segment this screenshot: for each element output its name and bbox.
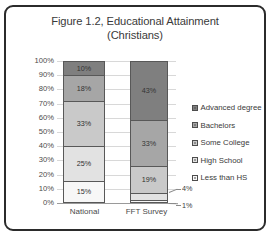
- y-tick-label: 0%: [20, 199, 54, 207]
- bar-segment-label: 10%: [77, 65, 91, 73]
- legend-item[interactable]: Bachelors: [192, 121, 266, 130]
- y-tick-label: 50%: [20, 128, 54, 136]
- legend-swatch-icon: [192, 175, 198, 181]
- bar-segment[interactable]: 10%: [64, 62, 104, 76]
- bar-segment[interactable]: 25%: [64, 147, 104, 182]
- bar-segment-label: 25%: [77, 160, 91, 168]
- chart-title-line-1: Figure 1.2, Educational Attainment: [51, 15, 219, 27]
- x-tick-national: National: [57, 207, 112, 217]
- y-tick-label: 40%: [20, 142, 54, 150]
- leader-line-high-school-tail: [176, 189, 181, 190]
- legend-swatch-icon: [192, 105, 198, 111]
- axis-baseline: [57, 203, 176, 204]
- bar-segment-label: 18%: [77, 85, 91, 93]
- y-axis: 100%90%80%70%60%50%40%30%20%10%0%: [20, 55, 54, 211]
- bar-segment[interactable]: [131, 201, 167, 202]
- legend-item[interactable]: High School: [192, 156, 266, 165]
- callout-less-than-hs: 1%: [182, 202, 192, 210]
- legend-item[interactable]: Some College: [192, 138, 266, 147]
- plot-area: 10%18%33%25%15% 43%33%19%: [57, 61, 176, 203]
- leader-line-less-than-hs-tail: [176, 205, 181, 206]
- y-tick-label: 20%: [20, 171, 54, 179]
- bar-segment[interactable]: 33%: [131, 121, 167, 167]
- legend-item[interactable]: Advanced degree: [192, 103, 266, 112]
- bar-segment-label: 43%: [142, 87, 156, 95]
- chart-title: Figure 1.2, Educational Attainment (Chri…: [6, 15, 264, 42]
- bar-segment[interactable]: 15%: [64, 182, 104, 202]
- legend-item-label: Some College: [201, 138, 250, 147]
- y-tick-label: 100%: [20, 57, 54, 65]
- legend-item-label: Bachelors: [201, 121, 236, 130]
- x-tick-fft-survey: FFT Survey: [117, 207, 176, 217]
- bar-segment-label: 33%: [77, 120, 91, 128]
- y-tick-label: 60%: [20, 114, 54, 122]
- bar-segment[interactable]: 18%: [64, 76, 104, 101]
- legend-item-label: Advanced degree: [201, 103, 262, 112]
- x-axis: National FFT Survey: [57, 207, 176, 221]
- y-tick-label: 10%: [20, 185, 54, 193]
- bar-national[interactable]: 10%18%33%25%15%: [63, 61, 105, 203]
- legend-swatch-icon: [192, 140, 198, 146]
- bar-fft-survey[interactable]: 43%33%19%: [130, 61, 168, 203]
- y-tick-label: 80%: [20, 85, 54, 93]
- legend-item-label: Less than HS: [201, 173, 248, 182]
- chart-frame: Figure 1.2, Educational Attainment (Chri…: [4, 5, 266, 231]
- y-tick-label: 70%: [20, 100, 54, 108]
- bar-segment-label: 15%: [77, 188, 91, 196]
- bar-segment-label: 33%: [142, 140, 156, 148]
- callout-high-school: 4%: [182, 185, 192, 193]
- bar-segment[interactable]: 43%: [131, 62, 167, 121]
- legend-item-label: High School: [201, 156, 243, 165]
- legend-swatch-icon: [192, 122, 198, 128]
- chart-title-line-2: (Christians): [6, 29, 264, 43]
- legend-swatch-icon: [192, 157, 198, 163]
- bar-segment[interactable]: 19%: [131, 167, 167, 194]
- chart-legend: Advanced degreeBachelorsSome CollegeHigh…: [192, 103, 266, 191]
- legend-item[interactable]: Less than HS: [192, 173, 266, 182]
- y-tick-label: 30%: [20, 156, 54, 164]
- bar-segment[interactable]: 33%: [64, 102, 104, 147]
- y-tick-label: 90%: [20, 71, 54, 79]
- bar-segment-label: 19%: [142, 176, 156, 184]
